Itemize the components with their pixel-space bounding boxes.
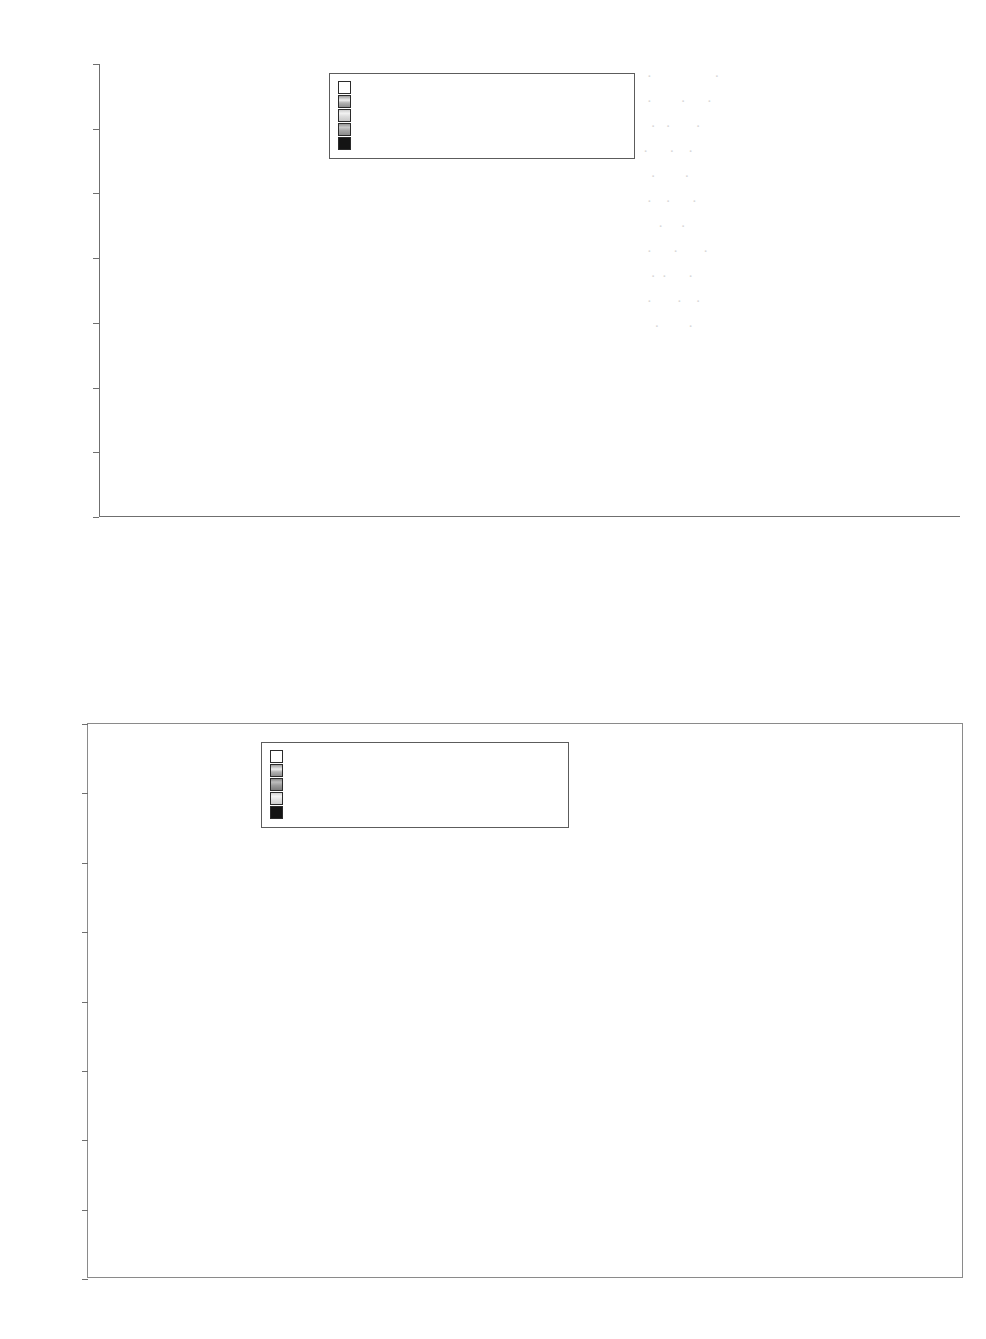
legend-item-total-input <box>338 137 624 150</box>
legend-swatch-total-input-icon <box>338 137 351 150</box>
legend-mehg <box>261 742 569 828</box>
legend-swatch-open-field-icon <box>270 764 283 777</box>
legend-swatch-litterfall-icon <box>270 792 283 805</box>
legend-item-litterfall <box>270 792 558 805</box>
chart-tothg-fluxes <box>0 0 986 690</box>
legend-swatch-export-icon <box>270 750 283 763</box>
legend-swatch-open-field-icon <box>338 95 351 108</box>
legend-swatch-throughfall-icon <box>338 109 351 122</box>
legend-item-open-field-precipitation <box>270 764 558 777</box>
legend-item-throughfall <box>338 109 624 122</box>
legend-tothg <box>329 73 635 159</box>
legend-swatch-export-icon <box>338 81 351 94</box>
legend-item-export <box>338 81 624 94</box>
legend-swatch-throughfall-icon <box>270 778 283 791</box>
legend-item-litterfall <box>338 123 624 136</box>
legend-swatch-total-input-icon <box>270 806 283 819</box>
figure-canvas: . . . . . . . . . . . . . . . . . . . . … <box>0 0 986 1339</box>
legend-swatch-litterfall-icon <box>338 123 351 136</box>
chart-mehg-flux <box>0 690 986 1339</box>
legend-item-open-field-precipitation <box>338 95 624 108</box>
legend-item-export <box>270 750 558 763</box>
legend-item-total-input <box>270 806 558 819</box>
legend-item-throughfall <box>270 778 558 791</box>
